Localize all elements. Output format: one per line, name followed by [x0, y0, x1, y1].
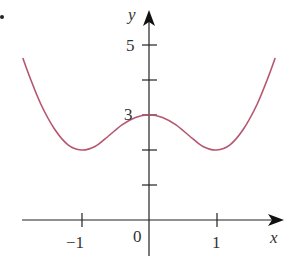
y-tick-label-5: 5 [126, 36, 135, 55]
y-axis-label: y [126, 5, 136, 24]
bullet-dot [0, 15, 4, 19]
x-tick-label-0: 0 [133, 227, 142, 246]
function-graph: y 5 3 −1 0 1 x [0, 0, 287, 258]
x-tick-label-1: 1 [212, 233, 221, 252]
y-tick-label-3: 3 [124, 105, 133, 124]
x-tick-label-neg1: −1 [66, 233, 84, 252]
x-axis-label: x [269, 228, 278, 247]
